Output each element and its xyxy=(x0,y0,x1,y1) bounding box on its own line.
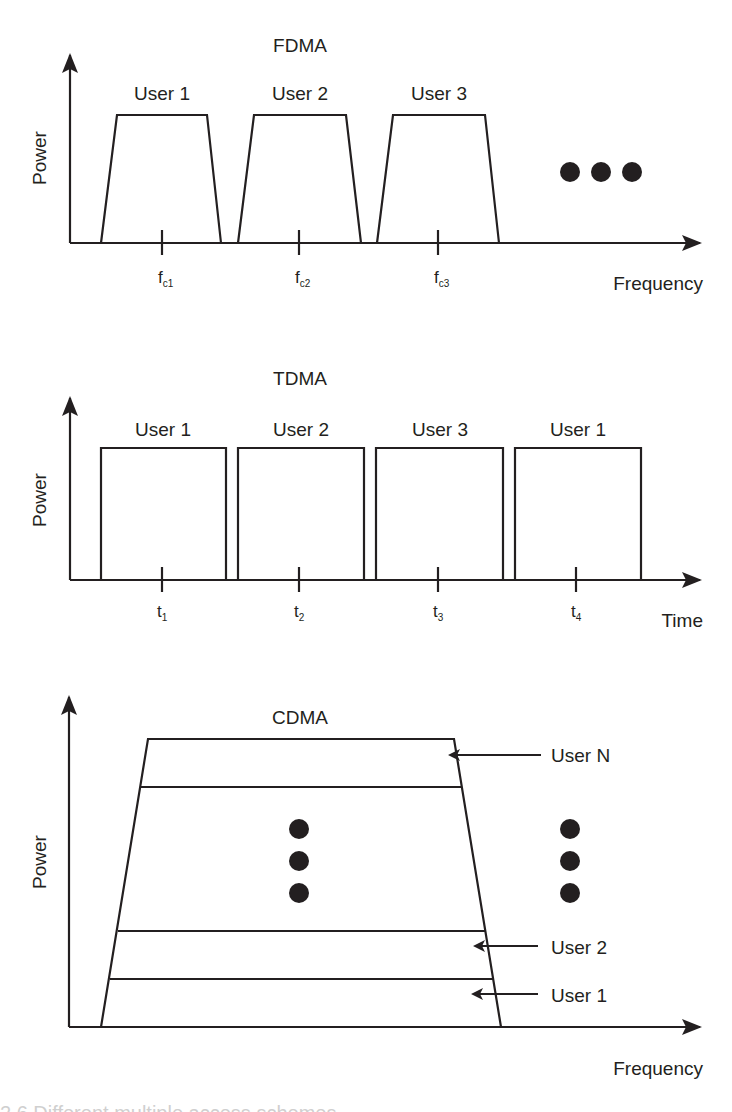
cdma-layer-label: User 1 xyxy=(551,985,607,1006)
tdma-title: TDMA xyxy=(273,368,327,389)
cdma-layer-label: User N xyxy=(551,745,610,766)
fdma-x-label: Frequency xyxy=(613,273,703,294)
fdma-tick-label: fc2 xyxy=(295,268,311,289)
figure-caption: 2.6 Different multiple access schemes xyxy=(0,1100,732,1112)
tdma-x-label: Time xyxy=(661,610,703,631)
fdma-title: FDMA xyxy=(273,35,327,56)
tdma-user-label: User 2 xyxy=(273,419,329,440)
fdma-y-label: Power xyxy=(29,130,50,185)
tdma-slot-4 xyxy=(515,448,641,580)
cdma-title: CDMA xyxy=(272,707,328,728)
fdma-tick-label: fc3 xyxy=(434,268,450,289)
tdma-tick-label: t2 xyxy=(294,602,305,623)
ellipsis-vertical-icon xyxy=(289,819,309,903)
fdma-tick-label: fc1 xyxy=(158,268,174,289)
tdma-panel: TDMA Power Time User 1 User 2 User 3 Use… xyxy=(29,368,703,631)
tdma-y-label: Power xyxy=(29,472,50,527)
cdma-layer-label: User 2 xyxy=(551,937,607,958)
tdma-slot-3 xyxy=(376,448,503,580)
ellipsis-horizontal-icon xyxy=(560,162,642,182)
fdma-user-label: User 1 xyxy=(134,83,190,104)
tdma-user-label: User 1 xyxy=(135,419,191,440)
fdma-user-label: User 2 xyxy=(272,83,328,104)
tdma-slot-2 xyxy=(238,448,364,580)
fdma-band-user-2 xyxy=(238,115,361,243)
cdma-spectrum-outline xyxy=(101,739,501,1027)
tdma-tick-label: t4 xyxy=(571,602,582,623)
tdma-tick-label: t3 xyxy=(433,602,444,623)
fdma-band-user-1 xyxy=(101,115,221,243)
fdma-user-label: User 3 xyxy=(411,83,467,104)
fdma-panel: FDMA Power Frequency User 1 User 2 User … xyxy=(29,35,703,294)
cdma-y-label: Power xyxy=(29,834,50,889)
cdma-x-label: Frequency xyxy=(613,1058,703,1079)
multiple-access-diagram: FDMA Power Frequency User 1 User 2 User … xyxy=(0,0,732,1112)
tdma-user-label: User 3 xyxy=(412,419,468,440)
ellipsis-vertical-icon xyxy=(560,819,580,903)
tdma-tick-label: t1 xyxy=(157,602,168,623)
cdma-panel: CDMA Power Frequency User N User 2 User … xyxy=(29,697,703,1079)
tdma-slot-1 xyxy=(101,448,226,580)
tdma-user-label: User 1 xyxy=(550,419,606,440)
fdma-band-user-3 xyxy=(377,115,499,243)
